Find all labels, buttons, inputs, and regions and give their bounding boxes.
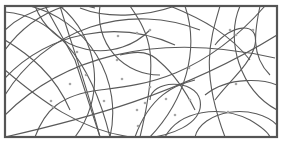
point-14 (165, 98, 168, 101)
curve-8 (150, 6, 191, 137)
point-21 (149, 86, 152, 89)
curve-11 (5, 47, 275, 115)
point-5 (229, 29, 232, 32)
point-20 (52, 106, 55, 109)
point-8 (85, 74, 88, 77)
point-15 (174, 114, 177, 117)
curve-21 (135, 80, 195, 137)
curve-22 (205, 81, 277, 95)
point-13 (235, 83, 238, 86)
point-18 (227, 111, 230, 114)
point-4 (149, 29, 152, 32)
point-10 (50, 100, 53, 103)
point-9 (121, 78, 124, 81)
curve-10 (5, 19, 200, 95)
curve-20 (45, 6, 100, 137)
point-23 (103, 100, 106, 103)
curves-diagram (0, 0, 283, 142)
point-11 (69, 83, 72, 86)
point-19 (137, 125, 140, 128)
curve-1 (5, 0, 140, 50)
point-3 (116, 59, 119, 62)
point-2 (76, 51, 79, 54)
point-22 (189, 99, 192, 102)
point-16 (136, 109, 139, 112)
curve-19 (215, 28, 256, 100)
point-17 (144, 102, 147, 105)
curve-3 (60, 6, 95, 137)
point-0 (117, 35, 120, 38)
curve-26 (195, 112, 277, 137)
curve-17 (234, 6, 277, 110)
point-7 (252, 29, 255, 32)
point-6 (235, 34, 238, 37)
curves-group (5, 0, 277, 137)
point-1 (136, 32, 139, 35)
point-12 (188, 67, 191, 70)
